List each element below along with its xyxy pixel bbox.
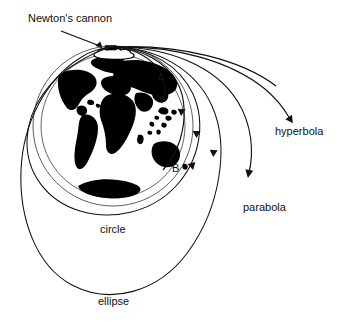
point-a-label: A [157, 72, 165, 84]
point-b-label: B [172, 162, 179, 174]
leader-arrow-icon [61, 31, 105, 49]
hyperbola-label: hyperbola [275, 125, 324, 137]
earth-globe-icon [41, 54, 188, 198]
circle-label: circle [100, 223, 126, 235]
newtons-cannon-diagram: Newton's cannon A B hyperbola parabola c… [0, 0, 343, 326]
cannon-label: Newton's cannon [28, 12, 112, 24]
ellipse-label: ellipse [98, 295, 129, 307]
parabola-label: parabola [243, 201, 287, 213]
